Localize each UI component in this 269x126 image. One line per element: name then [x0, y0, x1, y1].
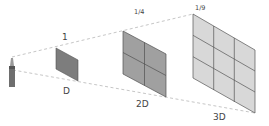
- intensity-label-3: 1/9: [195, 4, 205, 12]
- intensity-label-1: 1: [62, 32, 68, 42]
- light-source-icon: [9, 58, 15, 87]
- panel-distance-3d: [193, 14, 255, 113]
- distance-label-3: 3D: [213, 112, 226, 122]
- panel-distance-d: [56, 48, 78, 81]
- distance-label-2: 2D: [136, 99, 149, 109]
- distance-label-1: D: [63, 86, 70, 96]
- intensity-label-2: 1/4: [134, 8, 144, 16]
- inverse-square-diagram: 1 D 1/4 2D 1/9 3D: [0, 0, 269, 126]
- panel-distance-2d: [123, 31, 166, 97]
